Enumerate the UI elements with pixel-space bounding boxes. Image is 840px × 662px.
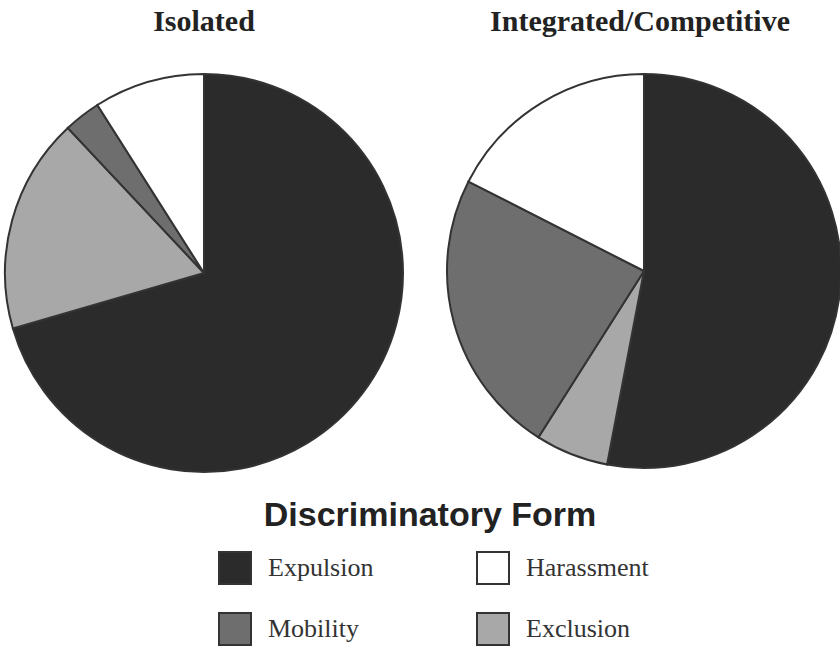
pie-charts: [0, 0, 840, 490]
legend-title: Discriminatory Form: [240, 495, 620, 534]
pie-chart-isolated: [5, 74, 403, 472]
legend-swatch-harassment-icon: [476, 551, 510, 585]
legend-item-harassment: Harassment: [476, 551, 649, 585]
legend-label: Exclusion: [526, 614, 630, 644]
legend-swatch-expulsion-icon: [218, 551, 252, 585]
legend-item-exclusion: Exclusion: [476, 612, 630, 646]
pie-chart-integrated-competitive: [447, 74, 840, 468]
legend-label: Harassment: [526, 553, 649, 583]
legend-label: Mobility: [268, 614, 359, 644]
legend-label: Expulsion: [268, 553, 373, 583]
legend-item-expulsion: Expulsion: [218, 551, 373, 585]
legend-swatch-exclusion-icon: [476, 612, 510, 646]
legend-swatch-mobility-icon: [218, 612, 252, 646]
legend-item-mobility: Mobility: [218, 612, 359, 646]
